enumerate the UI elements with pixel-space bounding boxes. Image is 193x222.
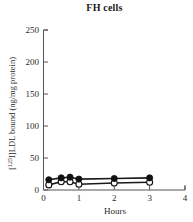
data-point-filled bbox=[111, 175, 117, 181]
data-series-layer bbox=[46, 174, 153, 188]
data-point-filled bbox=[76, 176, 82, 182]
y-tick-label: 100 bbox=[26, 121, 40, 131]
y-tick-label: 50 bbox=[30, 153, 40, 163]
x-tick-label: 1 bbox=[77, 193, 82, 203]
chart-figure: FH cells [125I]LDL bound (ng/mg protein)… bbox=[0, 0, 193, 222]
y-tick-label: 250 bbox=[26, 25, 40, 35]
y-tick-label: 0 bbox=[35, 185, 40, 195]
x-axis-ticks: 01234 bbox=[41, 186, 188, 204]
y-tick-label: 200 bbox=[26, 57, 40, 67]
x-tick-label: 2 bbox=[112, 193, 117, 203]
data-point-filled bbox=[58, 175, 64, 181]
data-point-filled bbox=[67, 174, 73, 180]
x-tick-label: 0 bbox=[41, 193, 46, 203]
y-axis-ticks: 050100150200250 bbox=[26, 25, 49, 195]
data-point-filled bbox=[46, 177, 52, 183]
x-tick-label: 3 bbox=[147, 193, 152, 203]
data-point-filled bbox=[147, 175, 153, 181]
y-tick-label: 150 bbox=[26, 89, 40, 99]
x-tick-label: 4 bbox=[183, 193, 188, 203]
plot-area: 050100150200250 01234 bbox=[0, 0, 193, 222]
